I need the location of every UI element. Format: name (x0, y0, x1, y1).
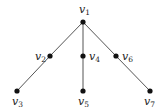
edge-v1-v2 (50, 22, 83, 56)
node-v6 (113, 53, 118, 58)
label-v6: v6 (122, 50, 133, 64)
node-v5 (80, 88, 85, 93)
node-v2 (47, 53, 52, 58)
node-v4 (80, 53, 85, 58)
label-v3: v3 (12, 95, 23, 109)
node-v1 (80, 19, 85, 24)
label-v7: v7 (144, 95, 155, 109)
label-v2: v2 (35, 50, 46, 64)
label-v1: v1 (79, 3, 90, 17)
node-v3 (14, 88, 19, 93)
tree-diagram: v1v2v3v4v5v6v7 (0, 0, 163, 109)
edge-v1-v6 (83, 22, 116, 56)
label-v4: v4 (89, 50, 100, 64)
label-v5: v5 (78, 95, 89, 109)
tree-graph: v1v2v3v4v5v6v7 (0, 0, 163, 109)
node-v7 (147, 88, 152, 93)
